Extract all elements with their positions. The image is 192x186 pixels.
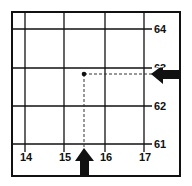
easting-label-14: 14 [20, 152, 32, 163]
easting-label-16: 16 [100, 152, 112, 163]
northing-label-61: 61 [154, 139, 166, 150]
northing-label-62: 62 [154, 101, 166, 112]
northing-arrow-icon [151, 65, 180, 84]
easting-arrow-icon [75, 148, 94, 176]
easting-label-17: 17 [139, 152, 151, 163]
northing-label-64: 64 [154, 24, 166, 35]
horizontal-grid-lines [12, 29, 152, 144]
dashed-guides [84, 74, 152, 158]
location-point [82, 72, 87, 77]
map-border [12, 12, 180, 176]
easting-label-15: 15 [59, 152, 71, 163]
